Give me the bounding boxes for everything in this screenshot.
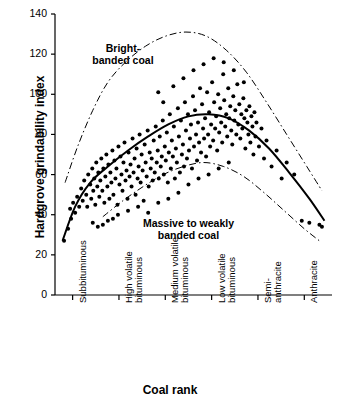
data-point xyxy=(181,142,185,146)
data-point xyxy=(228,104,232,108)
data-point xyxy=(252,110,256,114)
data-point xyxy=(93,203,97,207)
data-point xyxy=(199,150,203,154)
data-point xyxy=(197,177,201,181)
data-point xyxy=(241,96,245,100)
y-tick-label: 80 xyxy=(21,127,47,139)
data-point xyxy=(190,167,194,171)
y-tick-label: 60 xyxy=(21,168,47,180)
data-point xyxy=(262,157,266,161)
y-tick-label: 40 xyxy=(21,208,47,220)
data-point xyxy=(223,124,227,128)
data-point xyxy=(128,175,132,179)
data-point xyxy=(248,140,252,144)
data-point xyxy=(133,157,137,161)
data-point xyxy=(118,155,122,159)
data-point xyxy=(234,132,238,136)
data-point xyxy=(175,161,179,165)
data-point xyxy=(152,138,156,142)
data-point xyxy=(155,161,159,165)
data-point xyxy=(186,112,190,116)
data-point xyxy=(153,171,157,175)
data-point xyxy=(108,171,112,175)
data-point xyxy=(115,203,119,207)
data-point xyxy=(136,205,140,209)
data-point xyxy=(178,171,182,175)
data-point xyxy=(85,205,89,209)
data-point xyxy=(151,179,155,183)
data-point xyxy=(156,148,160,152)
data-point xyxy=(225,134,229,138)
data-point xyxy=(227,116,231,120)
data-point xyxy=(166,197,170,201)
data-point xyxy=(168,112,172,116)
annotation-label: Bright- banded coal xyxy=(68,42,178,66)
data-point xyxy=(220,140,224,144)
data-point xyxy=(218,106,222,110)
data-point xyxy=(300,219,304,223)
data-point xyxy=(195,159,199,163)
data-point xyxy=(236,122,240,126)
data-point xyxy=(210,80,214,84)
annotation-label: Massive to weakly banded coal xyxy=(133,217,243,241)
data-point xyxy=(103,175,107,179)
data-point xyxy=(259,126,263,130)
data-point xyxy=(163,144,167,148)
data-point xyxy=(162,173,166,177)
data-point xyxy=(292,173,296,177)
data-point xyxy=(207,173,211,177)
data-point xyxy=(171,155,175,159)
data-point xyxy=(130,185,134,189)
data-point xyxy=(239,112,243,116)
data-point xyxy=(148,150,152,154)
x-tick-label: Subbituminous xyxy=(78,223,88,303)
hardgrove-grindability-chart: Hardgrove grindability index Coal rank 0… xyxy=(0,0,340,407)
data-point xyxy=(247,104,251,108)
data-point xyxy=(185,157,189,161)
data-point xyxy=(189,122,193,126)
data-point xyxy=(207,110,211,114)
data-point xyxy=(173,177,177,181)
data-point xyxy=(62,239,66,243)
data-point xyxy=(181,76,185,80)
data-point xyxy=(209,122,213,126)
data-point xyxy=(280,177,284,181)
data-point xyxy=(110,148,114,152)
data-point xyxy=(88,183,92,187)
data-point xyxy=(186,183,190,187)
data-point xyxy=(94,161,98,165)
data-point xyxy=(117,183,121,187)
data-point xyxy=(246,132,250,136)
data-point xyxy=(92,177,96,181)
data-point xyxy=(196,120,200,124)
data-point xyxy=(142,199,146,203)
data-point xyxy=(172,124,176,128)
data-point xyxy=(238,136,242,140)
data-point xyxy=(170,138,174,142)
data-point xyxy=(215,148,219,152)
data-point xyxy=(101,223,105,227)
data-point xyxy=(165,130,169,134)
y-tick-label: 20 xyxy=(21,248,47,260)
data-point xyxy=(111,217,115,221)
data-point xyxy=(161,118,165,122)
data-point xyxy=(232,68,236,72)
data-point xyxy=(192,68,196,72)
data-point xyxy=(95,185,99,189)
data-point xyxy=(134,193,138,197)
data-point xyxy=(227,161,231,165)
data-point xyxy=(183,100,187,104)
data-point xyxy=(89,197,93,201)
data-point xyxy=(145,175,149,179)
data-point xyxy=(204,155,208,159)
data-point xyxy=(240,126,244,130)
data-point xyxy=(139,181,143,185)
data-point xyxy=(254,120,258,124)
x-axis-label: Coal rank xyxy=(0,383,340,397)
data-point xyxy=(109,181,113,185)
data-point xyxy=(176,191,180,195)
data-point xyxy=(214,114,218,118)
data-point xyxy=(217,130,221,134)
data-point xyxy=(205,90,209,94)
data-point xyxy=(146,211,150,215)
